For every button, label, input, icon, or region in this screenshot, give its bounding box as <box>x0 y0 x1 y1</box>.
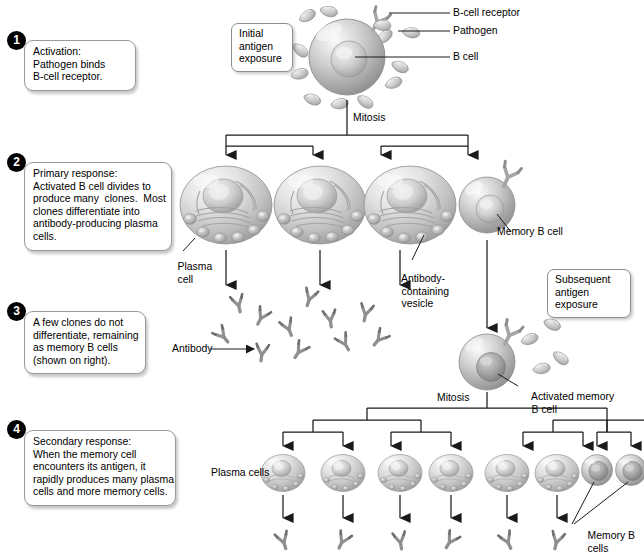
callout-3-line-2: differentiate, remaining <box>33 330 137 343</box>
label-antibody: Antibody <box>172 343 212 355</box>
memory-b-cells-line-1: Memory B <box>588 530 635 541</box>
activated-memory-line-1: Activated memory <box>531 391 614 402</box>
callout-4-line-1: Secondary response: <box>33 436 167 449</box>
plasma-cell-s3 <box>378 455 422 492</box>
initial-exposure-line-1: Initial <box>239 28 285 41</box>
step-badge-1: 1 <box>7 31 26 50</box>
memory-b-cell-primary <box>459 161 521 233</box>
label-mitosis-top: Mitosis <box>353 112 385 124</box>
callout-2-line-4: clones differentiate into <box>33 206 163 219</box>
antibody-cluster-primary <box>212 288 389 362</box>
callout-2-line-6: cells. <box>33 231 163 244</box>
activated-memory-line-2: B cell <box>532 404 557 415</box>
step-badge-2: 2 <box>7 153 26 172</box>
memory-b-cell-s1 <box>582 455 613 486</box>
callout-1-line-2: Pathogen binds <box>33 59 127 72</box>
subsequent-exposure-line-1: Subsequent <box>555 274 623 287</box>
antibody-secretion-arrows <box>226 250 400 285</box>
memory-b-cells-line-2: cells <box>588 543 609 554</box>
callout-step-3: A few clones do not differentiate, remai… <box>24 311 146 374</box>
plasma-cell-s4 <box>429 455 473 492</box>
label-pathogen: Pathogen <box>453 25 498 37</box>
plasma-cell-line-2: cell <box>178 274 194 285</box>
antibody-cluster-secondary <box>275 530 565 551</box>
subsequent-exposure-line-3: exposure <box>555 299 623 312</box>
label-plasma-cells: Plasma cells <box>211 467 269 479</box>
box-initial-antigen-exposure: Initial antigen exposure <box>231 23 293 72</box>
b-cell-initial <box>309 7 391 95</box>
callout-4-line-2: When the memory cell <box>33 449 167 462</box>
vesicle-line-3: vesicle <box>402 298 434 309</box>
label-memory-b-cells: Memory B cells <box>576 518 635 559</box>
callout-2-line-1: Primary response: <box>33 168 163 181</box>
vesicle-line-2: containing <box>402 286 449 297</box>
label-memory-b-cell: Memory B cell <box>497 226 563 238</box>
plasma-cell-3 <box>364 166 456 244</box>
label-mitosis-bottom: Mitosis <box>437 392 469 404</box>
plasma-cell-2 <box>274 166 366 244</box>
mitosis-branch-primary <box>226 100 468 155</box>
label-activated-memory-b-cell: Activated memory B cell <box>520 379 614 429</box>
diagram-canvas: 1 Activation: Pathogen binds B-cell rece… <box>0 0 644 559</box>
step-badge-3: 3 <box>7 302 26 321</box>
plasma-cell-s5 <box>485 455 529 492</box>
label-plasma-cell: Plasma cell <box>166 249 212 299</box>
callout-4-line-4: rapidly produces many plasma <box>33 474 167 487</box>
callout-2-line-2: Activated B cell divides to <box>33 181 163 194</box>
initial-exposure-line-3: exposure <box>239 53 285 66</box>
callout-3-line-3: as memory B cells <box>33 342 137 355</box>
callout-4-line-5: cells and more memory cells. <box>33 486 167 499</box>
activated-memory-b-cell <box>459 319 523 390</box>
pathogen-cluster-subsequent <box>520 316 571 374</box>
callout-4-line-3: encounters its antigen, it <box>33 461 167 474</box>
secondary-secretion-arrows <box>283 495 557 518</box>
callout-1-line-3: B-cell receptor. <box>33 71 127 84</box>
label-b-cell-receptor: B-cell receptor <box>453 7 520 19</box>
vesicle-line-1: Antibody- <box>401 273 445 284</box>
callout-1-line-1: Activation: <box>33 46 127 59</box>
callout-3-line-1: A few clones do not <box>33 317 137 330</box>
initial-exposure-line-2: antigen <box>239 41 285 54</box>
step-badge-4: 4 <box>7 420 26 439</box>
box-subsequent-antigen-exposure: Subsequent antigen exposure <box>547 269 631 318</box>
plasma-cell-s2 <box>321 455 365 492</box>
callout-step-1: Activation: Pathogen binds B-cell recept… <box>24 40 136 91</box>
callout-2-line-3: produce many clones. Most <box>33 193 163 206</box>
label-b-cell: B cell <box>453 51 478 63</box>
label-antibody-containing-vesicle: Antibody- containing vesicle <box>390 261 449 323</box>
plasma-cell-s6 <box>535 455 579 492</box>
plasma-cell-line-1: Plasma <box>178 261 213 272</box>
plasma-cell-1 <box>180 166 272 244</box>
subsequent-exposure-line-2: antigen <box>555 287 623 300</box>
callout-2-line-5: antibody-producing plasma <box>33 218 163 231</box>
callout-3-line-4: (shown on right). <box>33 355 137 368</box>
callout-step-2: Primary response: Activated B cell divid… <box>24 162 172 251</box>
callout-step-4: Secondary response: When the memory cell… <box>24 430 176 506</box>
memory-b-cell-s2 <box>616 455 644 486</box>
